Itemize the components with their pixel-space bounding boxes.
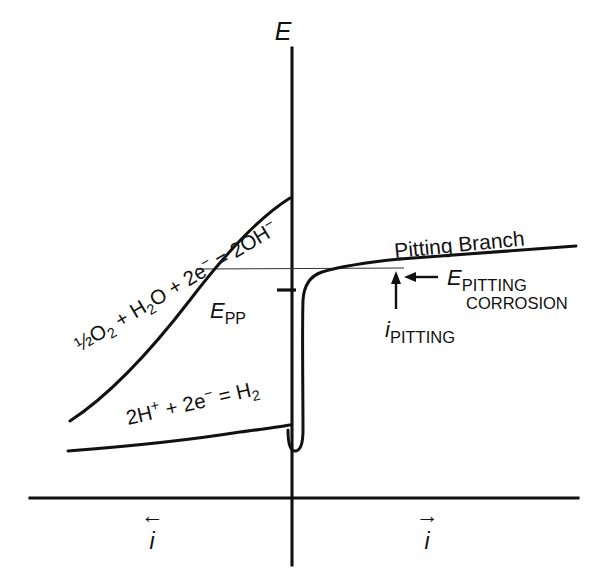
anodic-passive-curve: [288, 259, 400, 451]
pitting-branch-label: Pitting Branch: [393, 227, 525, 262]
hydrogen-reduction-curve: [68, 425, 290, 451]
h2-mid-1: + 2e: [158, 388, 208, 421]
right-arrow-icon: →: [416, 502, 439, 528]
e-pitting-base: E: [447, 265, 462, 290]
ox-lead: ½O: [70, 319, 110, 356]
hydrogen-reduction-label-group: 2H+ + 2e− = H2: [123, 374, 262, 433]
polarization-figure: E ← i → i EPP ½O2 + H2O + 2e− = 2OH−: [0, 0, 593, 575]
right-current-axis-label: i: [424, 528, 430, 554]
e-pp-base: E: [210, 298, 225, 323]
i-pitting-label: iPITTING: [385, 317, 455, 346]
e-pitting-arrow-icon: [404, 272, 416, 282]
oxygen-reduction-label-group: ½O2 + H2O + 2e− = 2OH−: [69, 215, 283, 359]
i-pitting-subscript: PITTING: [390, 328, 455, 346]
e-pp-label: EPP: [210, 298, 246, 327]
hydrogen-reduction-label: 2H+ + 2e− = H2: [123, 374, 262, 433]
polarization-diagram-canvas: E ← i → i EPP ½O2 + H2O + 2e− = 2OH−: [0, 0, 593, 575]
left-current-axis-label-group: ← i: [141, 502, 164, 554]
i-pitting-arrow-icon: [391, 271, 401, 284]
h2-mid-2: = H: [211, 378, 253, 409]
e-pitting-subscript: PITTING: [462, 276, 527, 294]
pitting-branch-label-group: Pitting Branch: [393, 227, 525, 262]
e-pp-subscript: PP: [225, 310, 246, 327]
e-pitting-corrosion-second-line: CORROSION: [466, 294, 568, 312]
e-pitting-corrosion-annotation: EPITTING CORROSION: [404, 265, 568, 312]
left-current-axis-label: i: [149, 528, 155, 554]
ox-mid-3: = 2OH: [206, 221, 274, 274]
i-pitting-annotation: iPITTING: [385, 271, 455, 346]
e-pitting-label: EPITTING: [447, 265, 527, 294]
left-arrow-icon: ←: [141, 502, 164, 528]
h2-sub-1: 2: [250, 387, 261, 404]
right-current-axis-label-group: → i: [416, 502, 439, 554]
oxygen-reduction-label: ½O2 + H2O + 2e− = 2OH−: [69, 215, 283, 359]
axis-label-potential: E: [275, 17, 292, 45]
